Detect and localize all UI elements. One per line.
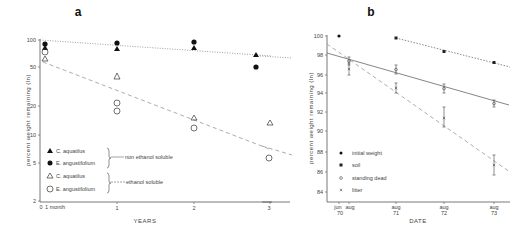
series-c-aquatilus-ethanol <box>42 56 273 125</box>
series-soil <box>395 37 496 65</box>
brace-non-ethanol <box>107 148 111 168</box>
panel-b-x-ticks: jun 70 aug aug 71 aug 72 aug 73 <box>333 202 498 216</box>
y-tick-96: 96 <box>317 72 323 78</box>
legend-group-non-ethanol: non ethanol soluble <box>125 154 173 160</box>
fit-line-standing-dead <box>327 53 509 105</box>
series-standing-dead <box>348 57 496 107</box>
panel-b: b 100 98 96 94 92 90 88 86 84 <box>308 5 510 224</box>
y-tick-92: 92 <box>317 109 323 115</box>
legend-group-ethanol: ethanol soluble <box>126 179 163 185</box>
legend-initial-weight-icon <box>340 152 343 155</box>
panel-a: a 100 50 20 10 5 2 0 1 month 1 2 <box>25 5 292 224</box>
panel-a-x-ticks: 0 1 month 1 2 3 <box>39 202 270 211</box>
brace-ethanol <box>107 173 111 193</box>
panel-b-y-ticks: 100 98 96 94 92 90 88 86 84 <box>314 33 327 195</box>
fit-line-ethanol <box>43 62 272 150</box>
panel-b-x-label: DATE <box>409 218 427 224</box>
panel-b-y-label: percent weight remaining (ln) <box>308 72 314 164</box>
y-tick-100: 100 <box>314 33 323 39</box>
legend-open-circle-icon <box>47 186 53 192</box>
legend-filled-circle-icon <box>48 161 53 166</box>
x-tick-2: 2 <box>192 205 195 211</box>
x-tick-1: 1 <box>115 205 118 211</box>
legend-standing-dead: standing dead <box>352 175 387 181</box>
series-e-angustifolium-ethanol <box>42 49 272 161</box>
y-tick-84: 84 <box>317 189 323 195</box>
panel-b-title: b <box>367 5 374 19</box>
point-initial-weight <box>337 34 340 37</box>
panel-a-y-label: percent weight remaining (ln) <box>25 74 31 166</box>
series-c-aquatilus-non-ethanol <box>42 45 259 57</box>
x-tick-72: 72 <box>441 210 447 216</box>
legend-soil: soil <box>352 162 360 168</box>
y-tick-86: 86 <box>317 169 323 175</box>
legend-c-aquatilus-non: C. aquatilus <box>56 148 85 154</box>
legend-litter: litter <box>352 187 363 193</box>
legend-open-triangle-icon <box>47 173 53 178</box>
fit-line-non-ethanol-extension <box>260 56 292 58</box>
legend-filled-triangle-icon <box>47 148 53 153</box>
x-tick-73: 73 <box>491 210 497 216</box>
legend-standing-dead-icon <box>340 177 343 180</box>
x-tick-3: 3 <box>267 205 270 211</box>
legend-initial-weight: initial weight <box>352 150 382 156</box>
legend-e-angustifolium-non: E. angustifolium <box>56 160 96 166</box>
y-tick-100: 100 <box>27 37 36 43</box>
fit-line-ethanol-extension <box>262 146 292 155</box>
legend-litter-icon <box>340 189 342 191</box>
x-tick-70: 70 <box>337 210 343 216</box>
y-tick-98: 98 <box>317 52 323 58</box>
legend-c-aquatilus-eth: C. aquatilus <box>56 173 85 179</box>
x-tick-0: 0 <box>39 204 42 210</box>
legend-soil-icon <box>340 164 343 167</box>
figure: a 100 50 20 10 5 2 0 1 month 1 2 <box>0 0 531 232</box>
y-tick-2: 2 <box>33 198 36 204</box>
panel-b-legend: initial weight soil standing dead litter <box>340 150 387 193</box>
fit-line-non-ethanol <box>40 40 272 56</box>
x-tick-71: 71 <box>393 210 399 216</box>
y-tick-88: 88 <box>317 149 323 155</box>
panel-a-legend: C. aquatilus E. angustifolium C. aquatil… <box>47 148 173 193</box>
y-tick-50: 50 <box>30 64 36 70</box>
y-tick-5: 5 <box>33 160 36 166</box>
series-e-angustifolium-non-ethanol <box>42 39 258 69</box>
x-tick-1-month: 1 month <box>45 204 65 210</box>
legend-e-angustifolium-eth: E. angustifolium <box>56 186 96 192</box>
y-tick-94: 94 <box>317 90 323 96</box>
panel-a-title: a <box>75 5 82 19</box>
panel-a-x-label: YEARS <box>134 218 157 224</box>
y-tick-90: 90 <box>317 128 323 134</box>
x-tick-aug-70: aug <box>345 204 354 210</box>
